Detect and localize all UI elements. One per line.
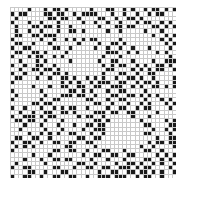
figure-container <box>0 0 197 201</box>
binary-matrix-heatmap <box>10 7 176 178</box>
heatmap-plot-area <box>10 7 176 178</box>
